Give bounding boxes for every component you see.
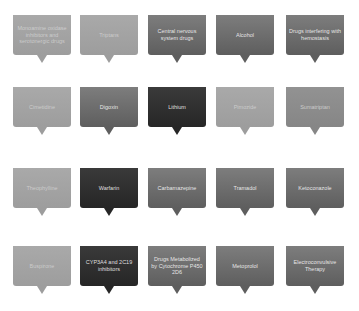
callout-metoprolol: Metoprolol bbox=[216, 246, 274, 286]
callout-hemostasis-drugs: Drugs interfering with hemostasis bbox=[286, 15, 344, 55]
callout-cimetidine: Cimetidine bbox=[13, 87, 71, 127]
callout-label: Cimetidine bbox=[29, 104, 55, 111]
callout-label: Theophylline bbox=[26, 185, 57, 192]
callout-lithium: Lithium bbox=[148, 87, 206, 127]
callout-label: CYP3A4 and 2C19 inhibitors bbox=[83, 259, 135, 272]
callout-pimozide: Pimozide bbox=[216, 87, 274, 127]
callout-carbamazepine: Carbamazepine bbox=[148, 168, 206, 208]
callout-ect: Electroconvulsive Therapy bbox=[286, 246, 344, 286]
callout-ketoconazole: Ketoconazole bbox=[286, 168, 344, 208]
callout-theophylline: Theophylline bbox=[13, 168, 71, 208]
callout-cns-drugs: Central nervous system drugs bbox=[148, 15, 206, 55]
callout-alcohol: Alcohol bbox=[216, 15, 274, 55]
callout-label: Electroconvulsive Therapy bbox=[289, 259, 341, 272]
callout-label: Digoxin bbox=[100, 104, 118, 111]
callout-label: Pimozide bbox=[234, 104, 257, 111]
callout-cyp2d6-drugs: Drugs Metabolized by Cytochrome P450 2D6 bbox=[148, 246, 206, 286]
callout-label: Ketoconazole bbox=[298, 185, 331, 192]
callout-label: Alcohol bbox=[236, 32, 254, 39]
callout-label: Buspirone bbox=[30, 263, 55, 270]
callout-warfarin: Warfarin bbox=[80, 168, 138, 208]
drug-interaction-grid: Monoamine oxidase inhibitors and seroton… bbox=[0, 0, 359, 311]
callout-label: Sumatriptan bbox=[300, 104, 330, 111]
callout-label: Monoamine oxidase inhibitors and seroton… bbox=[16, 25, 68, 45]
callout-label: Drugs Metabolized by Cytochrome P450 2D6 bbox=[151, 256, 203, 276]
callout-label: Warfarin bbox=[99, 185, 120, 192]
callout-label: Tramadol bbox=[233, 185, 256, 192]
callout-digoxin: Digoxin bbox=[80, 87, 138, 127]
callout-label: Carbamazepine bbox=[158, 185, 197, 192]
callout-tramadol: Tramadol bbox=[216, 168, 274, 208]
callout-sumatriptan: Sumatriptan bbox=[286, 87, 344, 127]
callout-label: Lithium bbox=[168, 104, 186, 111]
callout-label: Drugs interfering with hemostasis bbox=[289, 28, 341, 41]
callout-triptans: Triptans bbox=[80, 15, 138, 55]
callout-maoi-serotonergic: Monoamine oxidase inhibitors and seroton… bbox=[13, 15, 71, 55]
callout-buspirone: Buspirone bbox=[13, 246, 71, 286]
callout-label: Central nervous system drugs bbox=[151, 28, 203, 41]
callout-label: Metoprolol bbox=[232, 263, 258, 270]
callout-cyp-inhibitors: CYP3A4 and 2C19 inhibitors bbox=[80, 246, 138, 286]
callout-label: Triptans bbox=[99, 32, 119, 39]
